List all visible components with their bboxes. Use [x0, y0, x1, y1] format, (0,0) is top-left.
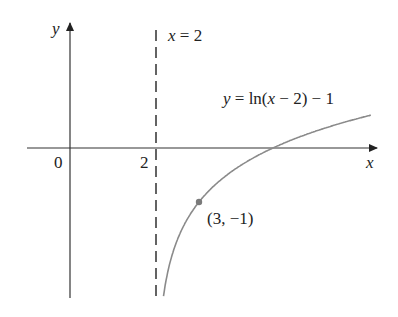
asymptote-label: x = 2 [167, 26, 202, 45]
tick-label-2: 2 [140, 153, 149, 172]
x-axis-label: x [365, 153, 374, 172]
point-3-minus1 [196, 199, 202, 205]
graph-figure: y x 0 2 x = 2 y = ln(x − 2) − 1 (3, −1) [0, 0, 398, 317]
point-label: (3, −1) [207, 209, 253, 228]
curve-label: y = ln(x − 2) − 1 [221, 89, 334, 108]
y-axis-label: y [50, 19, 60, 38]
log-curve [164, 115, 371, 296]
origin-label: 0 [54, 153, 63, 172]
